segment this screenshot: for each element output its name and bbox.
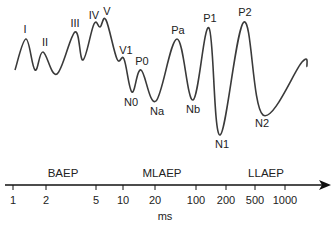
axis-tick-label: 1000 [273,194,297,206]
time-axis [5,180,331,190]
peak-label: N1 [215,138,229,150]
peak-label: I [23,23,26,35]
peak-label: V1 [119,44,132,56]
peak-label: P1 [203,12,216,24]
peak-label: III [70,17,79,29]
peak-label: N2 [255,117,269,129]
axis-tick-label: 5 [93,194,99,206]
axis-tick-label: 100 [187,194,205,206]
axis-unit-label: ms [158,210,173,222]
peak-label: P0 [135,55,148,67]
peak-label: N0 [124,96,138,108]
axis-tick-label: 2 [43,194,49,206]
range-label-llaep: LLAEP [248,167,284,179]
axis-tick-label: 500 [246,194,264,206]
axis-tick-label: 10 [117,194,129,206]
peak-label: Nb [186,103,200,115]
peak-label: Pa [171,24,185,36]
axis-tick-label: 200 [217,194,235,206]
peak-label: IV [89,9,100,21]
axis-ticks: 12510201002005001000 [10,185,297,206]
peak-label: II [42,36,48,48]
peak-label: V [103,5,111,17]
range-labels: BAEPMLAEPLLAEP [48,167,285,179]
peak-label: P2 [238,6,251,18]
aep-diagram: IIIIIIIVVV1P0N0NaPaNbP1N1P2N2 BAEPMLAEPL… [0,0,335,230]
peak-label: Na [150,105,165,117]
range-label-baep: BAEP [48,167,79,179]
range-label-mlaep: MLAEP [143,167,182,179]
axis-tick-label: 1 [10,194,16,206]
axis-tick-label: 20 [149,194,161,206]
